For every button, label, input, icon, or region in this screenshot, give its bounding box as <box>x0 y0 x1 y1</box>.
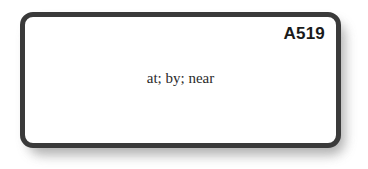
screen: A519 at; by; near <box>0 0 368 169</box>
card-id-label: A519 <box>284 25 325 42</box>
card-body-text: at; by; near <box>147 69 214 87</box>
card-body: at; by; near <box>25 69 336 87</box>
flashcard-inner: A519 at; by; near <box>25 17 336 143</box>
flashcard[interactable]: A519 at; by; near <box>20 12 341 148</box>
